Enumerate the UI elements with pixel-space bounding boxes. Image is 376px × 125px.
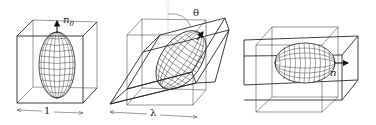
ellipsoid-reference bbox=[39, 32, 75, 98]
label-subscript: 0 bbox=[69, 20, 73, 28]
panel-rotated bbox=[244, 27, 358, 112]
panel-reference bbox=[17, 20, 97, 115]
label-theta: θ bbox=[193, 8, 199, 18]
label-n: n bbox=[330, 68, 336, 78]
panel-sheared bbox=[110, 2, 229, 119]
label-dimension-1: 1 bbox=[44, 106, 50, 116]
label-lambda: λ bbox=[150, 108, 156, 118]
angle-arc bbox=[168, 14, 191, 27]
label-n0: n0 bbox=[63, 15, 74, 28]
diagram-canvas bbox=[0, 0, 376, 125]
ellipsoid-deformation-figure: n0 1 θ λ n bbox=[0, 0, 376, 125]
ellipsoid-rotated bbox=[275, 43, 335, 83]
